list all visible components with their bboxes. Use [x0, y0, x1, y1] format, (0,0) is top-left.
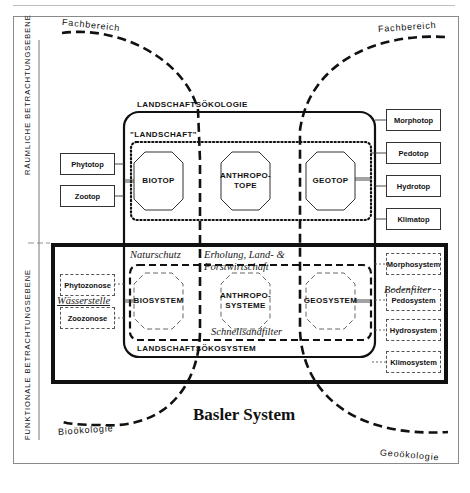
annotation-forstwirtschaft: Forstwirtschaft — [204, 261, 269, 272]
landschaftsoekosystem-label: LANDSCHAFTSÖKOSYSTEM — [137, 344, 256, 353]
geosystem-box: GEOSYSTEM — [306, 273, 355, 329]
zootop-box: Zootop — [60, 185, 115, 207]
geotop-box: GEOTOP — [306, 152, 355, 210]
figure-title: Basler System — [193, 405, 295, 425]
phytozonose-box: Phytozonose — [60, 274, 115, 296]
morphosystem-box: Morphosystem — [386, 253, 441, 275]
anthroposysteme-box: ANTHROPO- SYSTEME — [221, 273, 270, 329]
landschaftsoekologie-label: LANDSCHAFTSÖKOLOGIE — [137, 100, 248, 109]
hydrotop-box: Hydrotop — [386, 175, 441, 197]
annotation-erholung: Erholung, Land- & — [204, 249, 285, 260]
klimosystem-box: Klimosystem — [386, 351, 441, 373]
annotation-bodenfilter: Bodenfilter — [384, 284, 431, 295]
axis-label-spatial: RÄUMLICHE BETRACHTUNGSEBENE — [23, 14, 32, 175]
landschaft-label: "LANDSCHAFT" — [130, 130, 197, 139]
anthropotope-box: ANTHROPO- TOPE — [221, 152, 270, 210]
zoozonose-box: Zoozonose — [60, 307, 115, 329]
phytotop-box: Phytotop — [60, 153, 115, 175]
hydrosystem-box: Hydrosystem — [386, 319, 441, 341]
pedotop-box: Pedotop — [386, 142, 441, 164]
annotation-naturschutz: Naturschutz — [130, 249, 181, 260]
biosystem-box: BIOSYSTEM — [134, 273, 183, 329]
klimatop-box: Klimatop — [386, 208, 441, 230]
annotation-wasserstelle: Wässerstelle — [57, 295, 110, 306]
annotation-schnellsandfilter: Schnellsandfilter — [211, 326, 282, 337]
morphotop-box: Morphotop — [386, 109, 441, 131]
biotop-box: BIOTOP — [134, 152, 183, 210]
axis-label-functional: FUNKTIONALE BETRACHTUNGSEBENE — [23, 269, 32, 440]
